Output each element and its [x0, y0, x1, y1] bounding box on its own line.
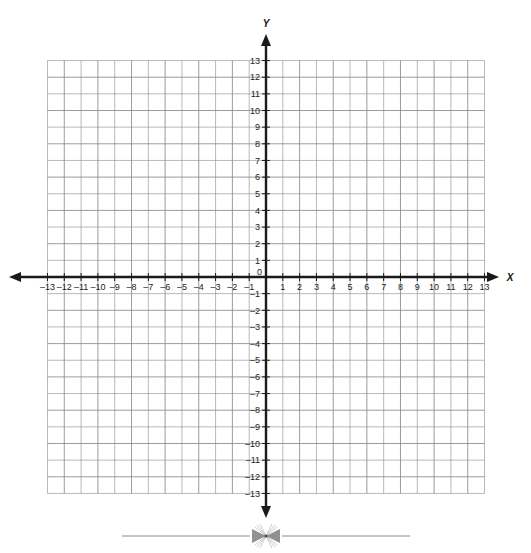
y-tick-label: –6: [250, 372, 260, 382]
x-tick-label: 4: [331, 282, 336, 292]
x-tick-label: –8: [127, 282, 137, 292]
x-tick-label: 3: [314, 282, 319, 292]
x-tick-label: 8: [398, 282, 403, 292]
x-tick-label: 13: [480, 282, 490, 292]
x-tick-label: –5: [177, 282, 187, 292]
x-tick-label: –12: [57, 282, 72, 292]
x-tick-label: 12: [463, 282, 473, 292]
y-tick-label: 12: [250, 72, 260, 82]
y-tick-label: –4: [250, 339, 260, 349]
y-tick-label: 9: [255, 122, 260, 132]
y-tick-label: 3: [255, 222, 260, 232]
y-tick-label: –9: [250, 422, 260, 432]
y-tick-label: 10: [250, 106, 260, 116]
y-tick-label: 1: [255, 256, 260, 266]
y-tick-label: 4: [255, 206, 260, 216]
x-tick-label: 9: [415, 282, 420, 292]
y-tick-label: 7: [255, 156, 260, 166]
y-tick-label: –7: [250, 389, 260, 399]
x-tick-label: 5: [348, 282, 353, 292]
coordinate-grid-page: –13–12–11–10–9–8–7–6–5–4–3–2–11234567891…: [0, 0, 531, 553]
x-tick-label: –4: [194, 282, 204, 292]
y-tick-label: –10: [245, 439, 260, 449]
x-tick-label: –6: [160, 282, 170, 292]
y-tick-label: –3: [250, 322, 260, 332]
y-tick-label: 8: [255, 139, 260, 149]
cartesian-coordinate-plane: –13–12–11–10–9–8–7–6–5–4–3–2–11234567891…: [0, 0, 531, 553]
y-tick-label: 6: [255, 172, 260, 182]
x-tick-label: –9: [110, 282, 120, 292]
x-tick-label: –2: [227, 282, 237, 292]
x-tick-label: –11: [74, 282, 88, 292]
y-tick-label: –5: [250, 355, 260, 365]
x-tick-label: –13: [40, 282, 55, 292]
x-tick-label: –3: [211, 282, 221, 292]
x-tick-label: 6: [364, 282, 369, 292]
y-tick-label: –8: [250, 405, 260, 415]
x-axis-label: X: [506, 272, 515, 283]
y-tick-label: –2: [250, 306, 260, 316]
x-tick-label: –7: [143, 282, 153, 292]
x-tick-label: 7: [381, 282, 386, 292]
y-tick-label: –1: [250, 289, 260, 299]
y-tick-label: 13: [250, 56, 260, 66]
y-tick-label: –11: [246, 455, 260, 465]
y-tick-label: 2: [255, 239, 260, 249]
y-tick-label: 11: [251, 89, 260, 99]
origin-label: 0: [257, 267, 262, 277]
y-tick-label: 5: [255, 189, 260, 199]
x-tick-label: 1: [280, 282, 285, 292]
x-tick-label: 11: [446, 282, 455, 292]
y-tick-label: –13: [245, 489, 260, 499]
x-tick-label: 10: [429, 282, 439, 292]
x-tick-label: 2: [297, 282, 302, 292]
x-tick-label: –10: [90, 282, 105, 292]
y-tick-label: –12: [245, 472, 260, 482]
